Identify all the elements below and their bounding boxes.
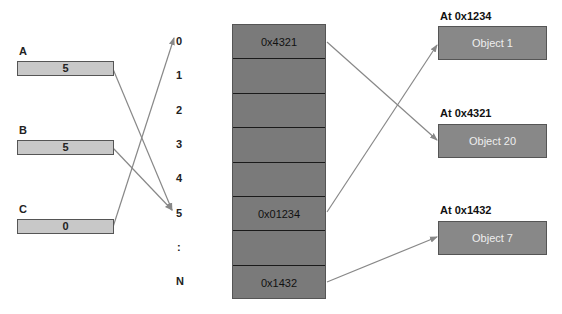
table-row: 0x01234 — [233, 197, 325, 231]
object-address-label: At 0x4321 — [440, 107, 491, 119]
index-label: : — [177, 241, 181, 253]
object-box: Object 7 — [438, 221, 547, 255]
object-box: Object 1 — [438, 26, 547, 60]
variable-label-a: A — [19, 45, 27, 57]
table-row — [233, 94, 325, 128]
index-label: 0 — [176, 35, 182, 47]
table-row: 0x1432 — [233, 266, 325, 300]
arrow-c-to-0 — [113, 38, 174, 227]
table-row — [233, 59, 325, 93]
arrow-row0-to-object20 — [327, 42, 437, 140]
index-label: 4 — [176, 172, 182, 184]
variable-box-c: 0 — [17, 219, 114, 234]
index-label: 3 — [176, 138, 182, 150]
variable-box-b: 5 — [17, 140, 114, 155]
table-row — [233, 231, 325, 265]
index-label: N — [176, 275, 184, 287]
index-label: 1 — [176, 69, 182, 81]
object-address-label: At 0x1234 — [440, 10, 491, 22]
arrow-row5-to-object1 — [327, 45, 437, 212]
table-row — [233, 163, 325, 197]
arrow-rowN-to-object7 — [327, 237, 437, 282]
table-row — [233, 128, 325, 162]
index-label: 5 — [176, 207, 182, 219]
object-box: Object 20 — [438, 124, 547, 158]
table-row: 0x4321 — [233, 25, 325, 59]
arrow-b-to-5 — [113, 148, 172, 210]
variable-box-a: 5 — [17, 61, 114, 76]
variable-label-c: C — [19, 203, 27, 215]
object-address-label: At 0x1432 — [440, 204, 491, 216]
reference-table: 0x4321 0x01234 0x1432 — [232, 24, 326, 299]
variable-label-b: B — [19, 124, 27, 136]
index-label: 2 — [176, 104, 182, 116]
arrow-a-to-5 — [113, 69, 172, 210]
